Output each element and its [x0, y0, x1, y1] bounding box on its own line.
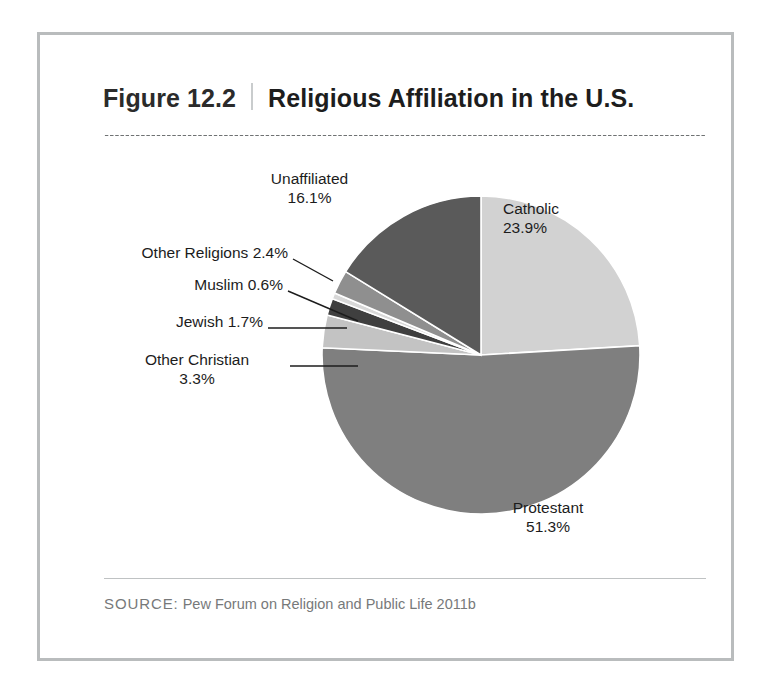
pie-label-protestant-name: Protestant	[468, 498, 628, 517]
pie-label-jewish-text: Jewish 1.7%	[70, 312, 263, 331]
pie-label-other-christian-name: Other Christian	[108, 350, 286, 369]
pie-label-unaffiliated-value: 16.1%	[222, 188, 397, 207]
pie-label-other-christian-value: 3.3%	[108, 369, 286, 388]
source-label: SOURCE:	[104, 595, 179, 612]
pie-label-muslim: Muslim 0.6%	[70, 275, 283, 294]
source-note: SOURCE: Pew Forum on Religion and Public…	[104, 595, 476, 612]
pie-label-other-religions: Other Religions 2.4%	[70, 243, 288, 262]
pie-chart: Unaffiliated 16.1% Catholic 23.9% Protes…	[40, 35, 737, 664]
pie-label-jewish: Jewish 1.7%	[70, 312, 263, 331]
pie-label-unaffiliated: Unaffiliated 16.1%	[222, 169, 397, 207]
pie-label-muslim-text: Muslim 0.6%	[70, 275, 283, 294]
source-citation: Pew Forum on Religion and Public Life 20…	[179, 596, 476, 612]
source-divider	[104, 578, 706, 579]
pie-label-other-religions-text: Other Religions 2.4%	[70, 243, 288, 262]
pie-label-unaffiliated-name: Unaffiliated	[222, 169, 397, 188]
pie-label-protestant-value: 51.3%	[468, 517, 628, 536]
pie-label-catholic-name: Catholic	[503, 199, 663, 218]
pie-slice-protestant	[322, 346, 640, 514]
pie-slice-group	[322, 196, 640, 514]
pie-label-catholic: Catholic 23.9%	[503, 199, 663, 237]
figure-frame: Figure 12.2 Religious Affiliation in the…	[37, 32, 734, 661]
pie-label-other-christian: Other Christian 3.3%	[108, 350, 286, 388]
pie-label-catholic-value: 23.9%	[503, 218, 663, 237]
leader-line-other-religions	[293, 259, 333, 281]
pie-label-protestant: Protestant 51.3%	[468, 498, 628, 536]
